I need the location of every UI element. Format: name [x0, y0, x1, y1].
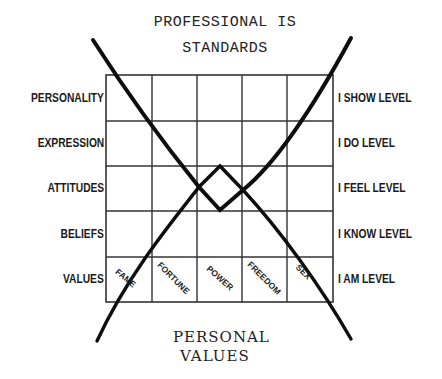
right-label-i-know-level: I KNOW LEVEL: [338, 227, 412, 241]
left-label-beliefs: BELIEFS: [61, 227, 104, 241]
grid-rows: [106, 121, 333, 257]
personal-values-curve: [97, 166, 351, 341]
top-title-line2: STANDARDS: [145, 40, 305, 57]
left-label-personality: PERSONALITY: [31, 91, 104, 105]
left-label-values: VALUES: [63, 272, 104, 286]
professional-standards-curve: [93, 38, 351, 210]
grid-columns: [152, 75, 287, 302]
bottom-title-line2: VALUES: [180, 347, 250, 365]
left-label-attitudes: ATTITUDES: [47, 181, 104, 195]
top-title-line1: PROFESSIONAL IS: [145, 14, 305, 31]
right-label-i-am-level: I AM LEVEL: [338, 272, 395, 286]
left-label-expression: EXPRESSION: [37, 136, 104, 150]
right-label-i-do-level: I DO LEVEL: [338, 136, 395, 150]
right-label-i-show-level: I SHOW LEVEL: [338, 91, 411, 105]
bottom-title-line1: PERSONAL: [173, 328, 270, 346]
right-label-i-feel-level: I FEEL LEVEL: [338, 181, 406, 195]
